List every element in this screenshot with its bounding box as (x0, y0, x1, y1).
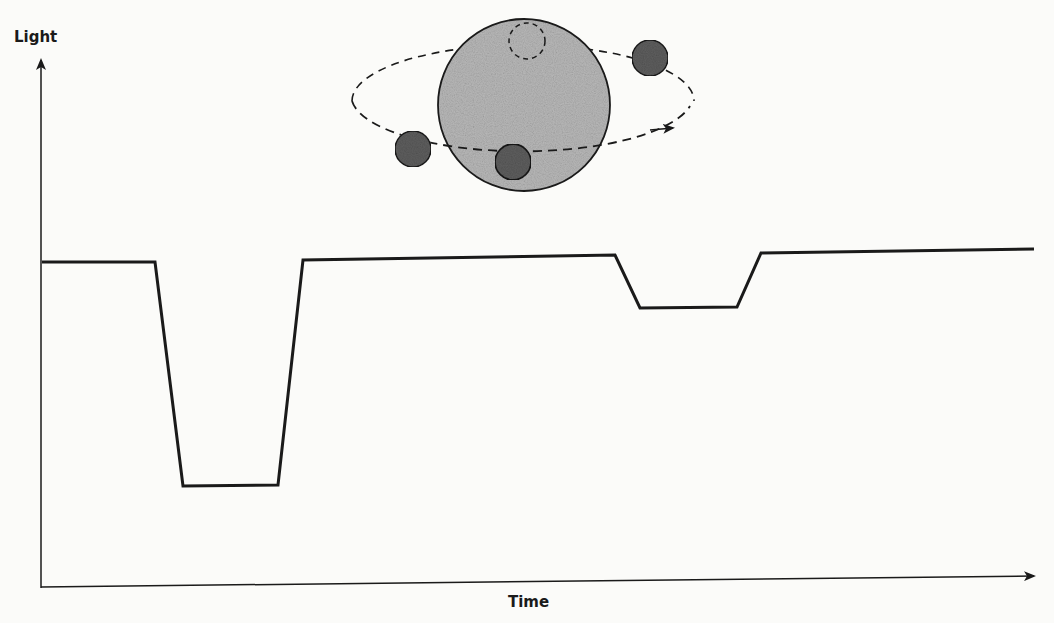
y-axis-label: Light (14, 28, 57, 46)
x-axis (41, 576, 1034, 587)
light-curve-diagram (0, 0, 1054, 623)
planet-right-icon (632, 40, 668, 76)
planet-transit-icon (495, 144, 531, 180)
planet-left-icon (395, 131, 431, 167)
light-curve-line (42, 249, 1034, 486)
x-axis-label: Time (508, 593, 549, 611)
